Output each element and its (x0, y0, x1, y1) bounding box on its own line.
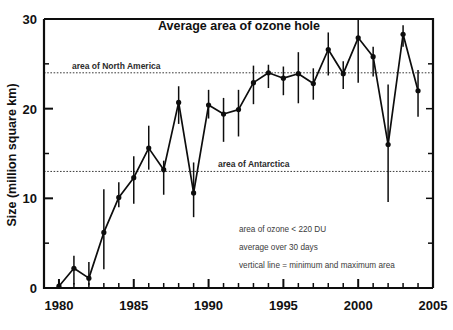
x-tick-label: 1980 (45, 298, 74, 313)
ozone-hole-chart: Average area of ozone hole Size (million… (0, 0, 453, 330)
data-point (400, 32, 405, 37)
annotation-line: vertical line = minimum and maximum area (239, 261, 395, 270)
data-point (131, 175, 136, 180)
x-tick-label: 2000 (344, 298, 373, 313)
data-point (296, 71, 301, 76)
data-point (146, 146, 151, 151)
chart-title: Average area of ozone hole (158, 19, 320, 33)
data-point (116, 195, 121, 200)
data-point (266, 70, 271, 75)
annotation-line: average over 30 days (239, 243, 318, 252)
data-point (221, 111, 226, 116)
data-point (311, 81, 316, 86)
data-point (176, 100, 181, 105)
data-point (326, 47, 331, 52)
y-tick-label: 30 (23, 12, 37, 27)
data-point (281, 76, 286, 81)
data-point (56, 284, 61, 289)
x-tick-label: 1995 (269, 298, 298, 313)
x-tick-label: 2005 (419, 298, 448, 313)
data-point (251, 80, 256, 85)
data-point (206, 102, 211, 107)
y-tick-label: 0 (30, 281, 37, 296)
data-point (415, 88, 420, 93)
reference-line-label: area of North America (72, 61, 161, 71)
data-point (371, 54, 376, 59)
data-point (161, 167, 166, 172)
data-point (86, 276, 91, 281)
data-point (236, 107, 241, 112)
x-tick-label: 1985 (119, 298, 148, 313)
data-point (341, 71, 346, 76)
y-axis-label: Size (million square km) (5, 83, 19, 226)
data-point (386, 142, 391, 147)
annotation-line: area of ozone < 220 DU (239, 225, 326, 234)
data-point (191, 190, 196, 195)
data-point (101, 230, 106, 235)
chart-canvas: Average area of ozone hole Size (million… (0, 0, 453, 330)
x-tick-label: 1990 (194, 298, 223, 313)
data-point (71, 266, 76, 271)
data-point (356, 35, 361, 40)
y-tick-label: 20 (23, 102, 37, 117)
reference-line-label: area of Antarctica (218, 159, 290, 169)
y-tick-label: 10 (23, 191, 37, 206)
